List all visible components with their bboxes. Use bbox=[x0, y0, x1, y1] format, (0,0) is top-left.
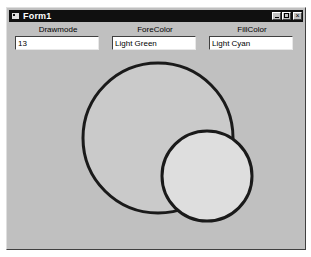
small-circle-shape bbox=[162, 131, 252, 221]
form1-window: Form1 × Drawmode ForeColor FillColor bbox=[6, 7, 306, 250]
drawing-canvas bbox=[7, 8, 307, 251]
